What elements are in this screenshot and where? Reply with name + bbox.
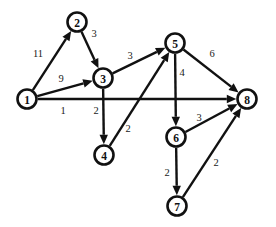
- node-label-3: 3: [100, 73, 106, 85]
- edge-weight-6-to-7: 2: [164, 167, 169, 178]
- edge-weight-3-to-4: 2: [93, 105, 98, 116]
- graph-node-3[interactable]: 3: [94, 69, 113, 88]
- arrowhead-icon-1-to-3: [82, 79, 92, 87]
- graph-node-6[interactable]: 6: [167, 128, 186, 147]
- node-label-1: 1: [24, 94, 30, 106]
- node-label-2: 2: [74, 17, 80, 29]
- graph-node-4[interactable]: 4: [95, 146, 114, 165]
- edge-weight-1-to-8: 1: [60, 105, 65, 116]
- edge-weight-1-to-2: 11: [33, 48, 43, 59]
- graph-node-7[interactable]: 7: [168, 197, 187, 216]
- edge-weights-layer: 1139122364322: [33, 28, 219, 178]
- graph-node-8[interactable]: 8: [238, 90, 257, 109]
- graph-node-5[interactable]: 5: [166, 34, 185, 53]
- edge-line-5-to-6: [175, 54, 176, 117]
- edge-weight-7-to-8: 2: [213, 157, 218, 168]
- edge-weight-5-to-8: 6: [209, 48, 214, 59]
- edge-line-1-to-3: [37, 83, 83, 96]
- node-label-6: 6: [173, 132, 179, 144]
- edge-weight-4-to-5: 2: [125, 123, 130, 134]
- edge-weight-5-to-6: 4: [179, 67, 185, 78]
- arrowhead-icon-5-to-6: [172, 117, 180, 127]
- edge-line-6-to-7: [176, 148, 177, 186]
- edge-line-6-to-8: [185, 109, 229, 132]
- node-label-8: 8: [244, 94, 250, 106]
- edge-weight-2-to-3: 3: [91, 28, 96, 39]
- edge-line-5-to-8: [183, 50, 231, 87]
- edge-line-4-to-5: [110, 60, 164, 146]
- edge-weight-6-to-8: 3: [196, 112, 201, 123]
- graph-diagram: 1139122364322 12345678: [0, 0, 276, 227]
- node-label-4: 4: [101, 150, 107, 162]
- graph-svg-canvas: 1139122364322 12345678: [0, 0, 276, 227]
- edge-line-3-to-5: [113, 52, 157, 73]
- node-label-5: 5: [172, 38, 178, 50]
- graph-node-2[interactable]: 2: [68, 13, 87, 32]
- edge-line-3-to-4: [103, 89, 104, 135]
- edge-weight-1-to-3: 9: [58, 73, 63, 84]
- node-label-7: 7: [174, 201, 180, 213]
- arrowhead-icon-3-to-4: [100, 135, 108, 145]
- graph-node-1[interactable]: 1: [18, 90, 37, 109]
- edge-weight-3-to-5: 3: [127, 50, 132, 61]
- arrowhead-icon-6-to-7: [173, 186, 181, 196]
- arrowhead-icon-1-to-8: [227, 95, 237, 103]
